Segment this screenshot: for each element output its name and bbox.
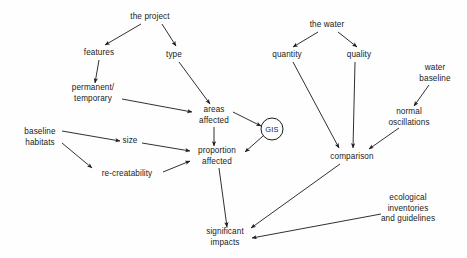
edge-arrow: [293, 32, 318, 47]
node-permanent-temporary: permanent/ temporary: [72, 83, 114, 104]
node-type: type: [166, 50, 182, 61]
node-significant-impacts: significant impacts: [206, 227, 244, 248]
node-proportion-affected: proportion affected: [198, 146, 236, 167]
node-baseline-habitats: baseline habitats: [24, 127, 55, 148]
node-quantity: quantity: [272, 50, 301, 61]
node-comparison: comparison: [330, 152, 373, 163]
edge-arrow: [353, 62, 355, 148]
edge-arrow: [179, 62, 210, 104]
node-the-project: the project: [130, 12, 169, 23]
edge-arrow: [105, 24, 141, 45]
edge-arrow: [252, 214, 381, 238]
edge-arrow: [162, 24, 176, 46]
node-the-water: the water: [310, 20, 345, 31]
edge-arrow: [233, 112, 261, 126]
edge-arrow: [251, 164, 340, 228]
node-gis: GIS: [261, 118, 284, 141]
node-re-creatability: re-creatability: [102, 169, 153, 180]
diagram-canvas: the projectfeaturestypepermanent/ tempor…: [0, 0, 467, 258]
edge-arrow: [245, 136, 263, 152]
edge-arrow: [414, 85, 429, 106]
edge-arrow: [122, 99, 192, 112]
node-normal-oscillations: normal oscillations: [388, 107, 429, 128]
node-size: size: [123, 136, 138, 147]
node-areas-affected: areas affected: [199, 105, 229, 126]
edge-arrow: [293, 62, 339, 148]
node-quality: quality: [347, 50, 371, 61]
edge-group: [62, 24, 429, 238]
node-features: features: [84, 48, 114, 59]
edge-arrow: [219, 168, 227, 227]
edge-arrow: [62, 143, 92, 168]
node-water-baseline: water baseline: [419, 63, 450, 84]
node-ecological-inventories: ecological inventories and guidelines: [381, 193, 435, 225]
edge-arrow: [369, 128, 399, 149]
edge-arrow: [338, 32, 357, 47]
edge-arrow: [142, 143, 190, 151]
edge-arrow: [95, 60, 99, 83]
edge-arrow: [62, 131, 120, 141]
edge-arrow: [163, 161, 190, 172]
